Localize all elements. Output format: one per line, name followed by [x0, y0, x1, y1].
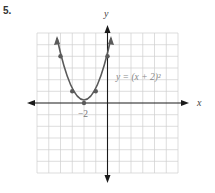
y-axis-label: y [103, 8, 109, 19]
curve-arrow-left-icon [54, 36, 60, 45]
y-axis-arrow-down-icon [105, 175, 111, 183]
curve-arrow-right-icon [108, 36, 114, 45]
x-axis-arrow-right-icon [181, 100, 189, 106]
y-axis-arrow-up-icon [105, 25, 111, 33]
graph: y x y = (x + 2)² −2 [0, 0, 215, 193]
x-axis-arrow-left-icon [27, 100, 35, 106]
equation-label: y = (x + 2)² [115, 72, 161, 83]
vertex-label: −2 [78, 109, 88, 119]
x-axis-label: x [196, 97, 202, 108]
